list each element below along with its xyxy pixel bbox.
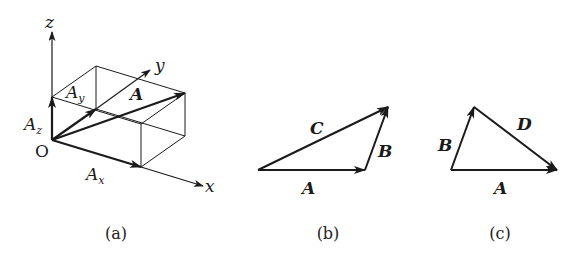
caption-a: (a) xyxy=(105,224,127,243)
vector-diagram: z y x O Az Ay Ax A (a) A B C (b) A B D (… xyxy=(0,0,581,264)
vector-b-label: B xyxy=(377,141,392,161)
vector-d-label: D xyxy=(516,114,532,134)
vector-a-label: A xyxy=(492,178,507,198)
vector-ay xyxy=(52,109,96,140)
ay-label: Ay xyxy=(64,82,85,105)
vector-b xyxy=(451,107,474,170)
caption-b: (b) xyxy=(317,224,340,243)
panel-c: A B D (c) xyxy=(437,107,557,243)
vector-d xyxy=(474,107,557,170)
az-label: Az xyxy=(22,114,42,137)
y-axis-label: y xyxy=(154,55,165,75)
vector-b-label: B xyxy=(437,135,452,155)
vector-a-label: A xyxy=(128,84,143,104)
z-axis-label: z xyxy=(44,12,55,32)
panel-a: z y x O Az Ay Ax A (a) xyxy=(22,12,215,243)
x-axis-label: x xyxy=(205,176,215,196)
vector-c-label: C xyxy=(310,118,324,138)
caption-c: (c) xyxy=(489,224,510,243)
vector-a-label: A xyxy=(300,178,315,198)
origin-label: O xyxy=(35,141,49,161)
vector-ax xyxy=(52,140,141,167)
x-axis xyxy=(141,167,203,186)
ax-label: Ax xyxy=(84,164,105,187)
panel-b: A B C (b) xyxy=(258,107,392,243)
